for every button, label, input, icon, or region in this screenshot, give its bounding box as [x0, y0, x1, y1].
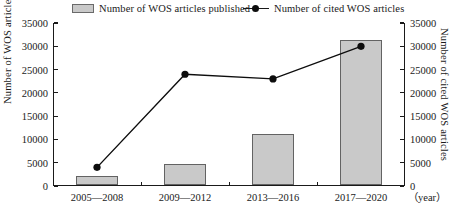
- y-axis-right-tick-label: 25000: [410, 64, 436, 75]
- line-marker: [93, 164, 100, 171]
- y-axis-left-tick-label: 5000: [27, 157, 48, 168]
- x-axis-category-label: 2017—2020: [335, 192, 388, 203]
- y-axis-left-tick-label: 10000: [22, 134, 48, 145]
- y-axis-right-tick-label: 15000: [410, 111, 436, 122]
- y-axis-title-left: Number of WOS articles published: [2, 0, 13, 104]
- y-axis-right-tick-label: 5000: [410, 157, 431, 168]
- line-path: [97, 46, 361, 167]
- x-axis-category-label: 2009—2012: [159, 192, 212, 203]
- line-marker: [357, 43, 364, 50]
- legend-item-cited: Number of cited WOS articles: [243, 3, 404, 14]
- x-axis-unit-label: （year）: [408, 192, 446, 203]
- y-axis-right-tick-label: 20000: [410, 87, 436, 98]
- y-axis-right-tick-label: 30000: [410, 41, 436, 52]
- y-axis-left-tick-label: 35000: [22, 18, 48, 29]
- y-axis-left-tick-label: 30000: [22, 41, 48, 52]
- chart-legend: Number of WOS articles published Number …: [0, 2, 456, 20]
- legend-label-published: Number of WOS articles published: [99, 3, 250, 14]
- plot-area: 05000100001500020000250003000035000 0500…: [53, 23, 405, 186]
- x-axis-category-label: 2005—2008: [71, 192, 124, 203]
- y-axis-left-tick-label: 0: [43, 181, 48, 192]
- y-axis-right-tick-label: 35000: [410, 18, 436, 29]
- chart-figure: Number of WOS articles published Number …: [0, 0, 456, 220]
- y-axis-left-tick-label: 25000: [22, 64, 48, 75]
- y-axis-title-right: Number of cited WOS articles: [439, 28, 450, 161]
- bar-swatch-icon: [72, 4, 94, 13]
- line-series: [53, 23, 405, 186]
- legend-item-published: Number of WOS articles published: [72, 3, 250, 14]
- y-axis-right-tick-label: 0: [410, 181, 415, 192]
- y-axis-left-tick-label: 20000: [22, 87, 48, 98]
- x-axis-category-label: 2013—2016: [247, 192, 300, 203]
- line-marker: [269, 75, 276, 82]
- y-axis-left-tick-label: 15000: [22, 111, 48, 122]
- legend-label-cited: Number of cited WOS articles: [274, 3, 404, 14]
- line-marker: [181, 71, 188, 78]
- line-marker-swatch-icon: [243, 4, 269, 13]
- y-axis-right-tick-label: 10000: [410, 134, 436, 145]
